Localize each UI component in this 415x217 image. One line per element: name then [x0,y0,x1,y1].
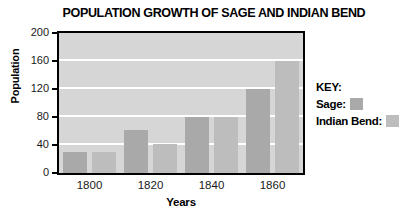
legend-label-sage: Sage: [316,98,346,110]
gridline [59,59,303,61]
bar-sage-1800 [63,152,87,173]
plot-area [57,31,305,175]
bar-indian-bend-1800 [92,152,116,173]
bar-indian-bend-1820 [153,144,177,173]
legend: KEY: Sage: Indian Bend: [316,78,415,129]
legend-label-indian-bend: Indian Bend: [316,115,382,127]
chart-title: POPULATION GROWTH OF SAGE AND INDIAN BEN… [63,5,342,20]
legend-item-sage: Sage: [316,95,415,112]
y-tick-label: 200 [23,27,49,38]
y-tick-label: 40 [23,139,49,150]
bar-indian-bend-1840 [214,117,238,173]
x-tick-label: 1860 [248,180,298,192]
bar-indian-bend-1860 [275,61,299,173]
y-axis-title: Population [9,31,21,121]
legend-swatch-indian-bend [386,115,399,127]
bar-sage-1820 [124,130,148,173]
legend-heading-row: KEY: [316,78,415,95]
legend-heading: KEY: [316,81,341,93]
chart-figure: POPULATION GROWTH OF SAGE AND INDIAN BEN… [0,0,415,217]
y-tick-label: 160 [23,55,49,66]
y-tick-label: 0 [23,167,49,178]
bar-sage-1860 [246,89,270,173]
x-tick-label: 1840 [187,180,237,192]
x-axis-title: Years [57,196,305,208]
y-tick-label: 120 [23,83,49,94]
y-tick-label: 80 [23,111,49,122]
legend-swatch-sage [350,98,363,110]
legend-item-indian-bend: Indian Bend: [316,112,415,129]
x-tick-label: 1820 [126,180,176,192]
x-tick-label: 1800 [65,180,115,192]
bar-sage-1840 [185,117,209,173]
